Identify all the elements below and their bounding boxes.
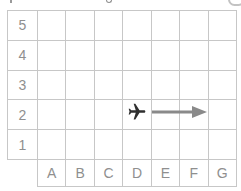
col-label: E xyxy=(161,166,170,180)
cropped-text-remnant xyxy=(10,0,12,3)
grid-cell xyxy=(180,41,208,71)
col-label-cell: E xyxy=(152,160,180,187)
row-label: 1 xyxy=(19,138,27,152)
col-label-cell: A xyxy=(38,160,66,187)
col-label-cell: G xyxy=(209,160,237,187)
grid-cell xyxy=(123,71,151,101)
grid-cell xyxy=(38,71,66,101)
grid-cell xyxy=(95,130,123,160)
grid-cell xyxy=(123,41,151,71)
grid-cell xyxy=(123,130,151,160)
right-arrow-icon xyxy=(151,104,208,120)
grid-cell xyxy=(209,41,237,71)
grid-cell xyxy=(209,100,237,130)
col-label-cell: C xyxy=(95,160,123,187)
col-label: F xyxy=(190,166,199,180)
col-label-cell: D xyxy=(123,160,151,187)
grid-cell xyxy=(95,11,123,41)
grid-cell xyxy=(38,100,66,130)
grid-cell xyxy=(95,41,123,71)
col-label: C xyxy=(104,166,114,180)
grid-cell xyxy=(152,11,180,41)
column-labels-row: A B C D E F G xyxy=(37,160,237,187)
col-label: A xyxy=(47,166,56,180)
col-label: G xyxy=(217,166,228,180)
col-label: D xyxy=(132,166,142,180)
grid-cell xyxy=(38,130,66,160)
grid-cell xyxy=(209,71,237,101)
row-label: 2 xyxy=(19,108,27,122)
col-label: B xyxy=(75,166,84,180)
row-label: 3 xyxy=(19,78,27,92)
row-label-cell: 1 xyxy=(8,130,38,160)
grid-cell xyxy=(152,130,180,160)
grid-cell xyxy=(38,41,66,71)
grid-cell xyxy=(66,41,94,71)
grid-cell xyxy=(38,11,66,41)
row-label-cell: 5 xyxy=(8,11,38,41)
cropped-rounded-corner xyxy=(228,0,241,6)
grid-cell xyxy=(209,11,237,41)
row-label-cell: 4 xyxy=(8,41,38,71)
grid-cell xyxy=(180,130,208,160)
worksheet-grid: 5 4 3 2 1 A B C D E F G xyxy=(0,0,241,191)
airplane-icon xyxy=(126,102,148,122)
coordinate-grid: 5 4 3 2 1 xyxy=(7,10,237,160)
grid-cell xyxy=(66,71,94,101)
row-label: 4 xyxy=(19,48,27,62)
col-label-cell: B xyxy=(66,160,94,187)
grid-cell xyxy=(95,71,123,101)
grid-cell xyxy=(180,11,208,41)
grid-cell xyxy=(152,71,180,101)
grid-cell xyxy=(152,41,180,71)
grid-cell xyxy=(209,130,237,160)
grid-cell xyxy=(95,100,123,130)
grid-cell xyxy=(180,71,208,101)
col-label-cell: F xyxy=(180,160,208,187)
cropped-text-remnant xyxy=(106,0,112,3)
grid-cell xyxy=(66,130,94,160)
grid-cell xyxy=(66,100,94,130)
row-label-cell: 2 xyxy=(8,100,38,130)
grid-cell xyxy=(123,11,151,41)
row-label-cell: 3 xyxy=(8,71,38,101)
row-label: 5 xyxy=(19,18,27,32)
grid-cell xyxy=(66,11,94,41)
